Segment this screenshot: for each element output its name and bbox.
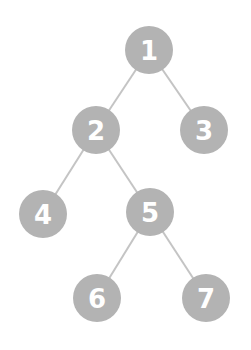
node-label: 4: [34, 200, 52, 230]
node-label: 5: [141, 198, 159, 228]
node-label: 7: [197, 284, 215, 314]
tree-node-6: 6: [73, 274, 121, 322]
tree-node-1: 1: [125, 26, 173, 74]
node-label: 2: [87, 116, 105, 146]
binary-tree-diagram: 1234567: [0, 0, 251, 350]
node-label: 1: [140, 36, 158, 66]
tree-node-5: 5: [126, 188, 174, 236]
node-label: 3: [195, 116, 213, 146]
node-label: 6: [88, 284, 106, 314]
tree-node-4: 4: [19, 190, 67, 238]
tree-node-3: 3: [180, 106, 228, 154]
tree-edges: [43, 50, 206, 298]
tree-node-7: 7: [182, 274, 230, 322]
tree-node-2: 2: [72, 106, 120, 154]
